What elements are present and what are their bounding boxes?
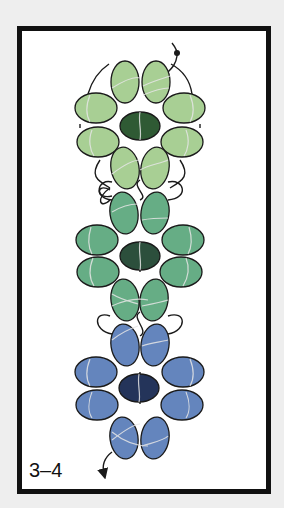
bead [163,93,205,123]
bead [76,390,118,420]
bead [161,127,203,157]
bead [107,415,141,460]
figure-label: 3–4 [29,460,62,480]
bead [75,357,117,387]
bead [111,61,139,103]
bead [142,61,170,103]
bead-pattern-diagram [0,0,284,508]
bead [137,277,171,322]
thread-start-knot [174,50,180,56]
bead [162,357,204,387]
bead [160,257,202,287]
bead [76,225,118,255]
bead [108,322,142,367]
bead [77,127,119,157]
bead [162,225,204,255]
bead [138,415,172,460]
bead [161,390,203,420]
bead [75,93,117,123]
bead [77,257,119,287]
